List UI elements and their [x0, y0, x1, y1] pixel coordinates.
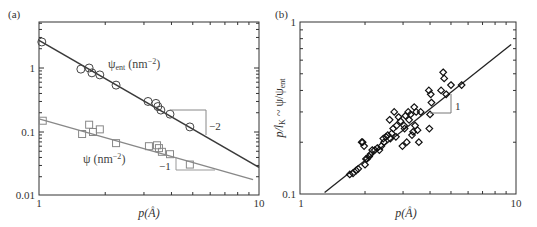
panel-b-slope-label: 1	[455, 100, 461, 112]
panel-a-series-label-ent: ψent (nm−2)	[108, 57, 160, 72]
data-point-diamond	[416, 139, 423, 146]
chart-figure: (a) 1 0.1 0.01 1 10 p(Å) −2 −1 ψent (nm−…	[0, 0, 537, 227]
panel-b: (b) 1 0.1 1 10 p(Å) p/lK ~ ψ/ψent 1	[272, 8, 522, 220]
panel-b-ticks	[300, 22, 516, 194]
panel-b-points	[346, 69, 464, 178]
data-point-diamond	[409, 132, 416, 139]
data-point-diamond	[448, 82, 455, 89]
panel-a-ytick-0.01: 0.01	[16, 189, 35, 201]
panel-a-series-label-psi: ψ (nm−2)	[83, 152, 125, 166]
data-point-diamond	[441, 75, 448, 82]
data-point-diamond	[391, 109, 398, 116]
panel-b-xtick-10: 10	[511, 197, 523, 209]
panel-b-ytick-0.1: 0.1	[282, 188, 296, 200]
panel-a-label: (a)	[8, 8, 21, 21]
panel-a: (a) 1 0.1 0.01 1 10 p(Å) −2 −1 ψent (nm−…	[8, 8, 265, 220]
panel-b-frame	[300, 22, 516, 194]
data-point-square	[154, 142, 161, 149]
panel-a-slope-label-psi: −1	[159, 160, 171, 172]
panel-a-xlabel: p(Å)	[137, 206, 159, 220]
panel-a-points	[38, 38, 194, 168]
data-point-circle	[77, 65, 85, 73]
panel-b-ytick-1: 1	[291, 16, 297, 28]
panel-a-slope-triangle-ent	[170, 110, 206, 135]
data-point-square	[145, 143, 152, 150]
panel-b-xtick-1: 1	[298, 197, 304, 209]
data-point-diamond	[427, 111, 434, 118]
panel-b-xlabel: p(Å)	[394, 206, 416, 220]
data-point-square	[86, 121, 93, 128]
panel-b-ylabel: p/lK ~ ψ/ψent	[272, 78, 287, 139]
panel-a-frame	[39, 22, 259, 195]
data-point-diamond	[428, 99, 435, 106]
data-point-diamond	[440, 69, 447, 76]
data-point-square	[96, 126, 103, 133]
panel-a-ticks	[39, 22, 259, 195]
panel-a-slope-label-ent: −2	[209, 120, 221, 132]
data-point-diamond	[438, 87, 445, 94]
panel-b-label: (b)	[275, 8, 288, 21]
panel-a-xtick-10: 10	[254, 197, 266, 209]
panel-a-ytick-0.1: 0.1	[21, 126, 35, 138]
data-point-diamond	[386, 117, 393, 124]
panel-a-xtick-1: 1	[36, 197, 42, 209]
data-point-diamond	[426, 125, 433, 132]
panel-a-ytick-1: 1	[30, 62, 36, 74]
